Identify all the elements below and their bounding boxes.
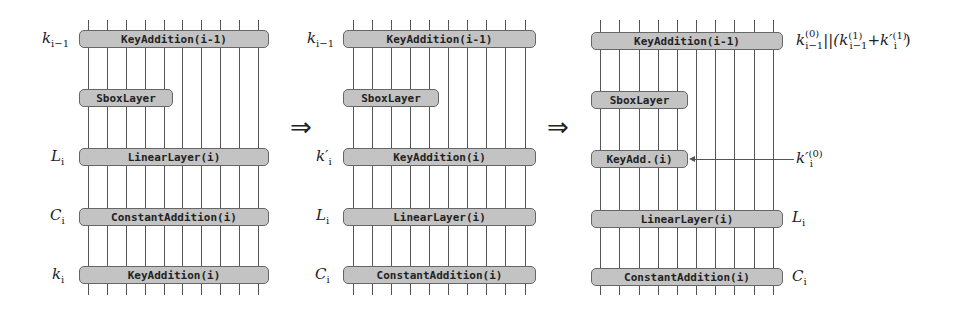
sbox-layer-box: SboxLayer (343, 89, 439, 107)
key-injection-line (694, 159, 794, 160)
key-addition-box: KeyAddition(i) (343, 148, 536, 166)
constant-addition-box: ConstantAddition(i) (591, 268, 783, 286)
label-C-i: Ci (792, 267, 807, 287)
key-addition-prev-box: KeyAddition(i-1) (343, 30, 536, 48)
key-addition-prev-box: KeyAddition(i-1) (79, 30, 269, 48)
label-key-concat: k(0)i−1||(k(1)i−1+k′(1)i) (796, 30, 911, 51)
sbox-layer-box: SboxLayer (591, 91, 688, 109)
label-k-prime-i-0: k′(0)i (796, 148, 813, 169)
arrow-head-icon (689, 156, 695, 162)
key-addition-prev-box: KeyAddition(i-1) (591, 32, 783, 50)
key-addition-box: KeyAddition(i) (79, 266, 269, 284)
linear-layer-box: LinearLayer(i) (79, 148, 269, 166)
linear-layer-box: LinearLayer(i) (343, 208, 536, 226)
key-add-box: KeyAdd.(i) (591, 150, 688, 168)
constant-addition-box: ConstantAddition(i) (79, 208, 269, 226)
linear-layer-box: LinearLayer(i) (591, 210, 783, 228)
sbox-layer-box: SboxLayer (79, 89, 173, 107)
constant-addition-box: ConstantAddition(i) (343, 266, 536, 284)
label-L-i: Li (792, 208, 805, 228)
